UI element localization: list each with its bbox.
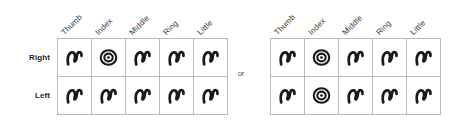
or-separator-label: or: [233, 69, 249, 78]
fingerprint-loop-icon: [166, 85, 187, 106]
column-header-little: Little: [406, 0, 440, 37]
row-label-column: Right Left: [8, 38, 56, 114]
pattern-cell: [92, 39, 126, 77]
fingerprint-loop-icon: [345, 47, 366, 68]
column-header-ring: Ring: [372, 0, 406, 37]
fingerprint-loop-icon: [200, 85, 221, 106]
fingerprint-loop-icon: [132, 47, 153, 68]
pattern-cell: [194, 39, 228, 77]
table-row: [271, 77, 441, 115]
table-row: [58, 39, 228, 77]
pattern-cell: [305, 77, 339, 115]
column-header-row: Thumb Index Middle Ring Little: [270, 0, 442, 38]
pattern-cell: [339, 77, 373, 115]
column-header-thumb: Thumb: [57, 0, 91, 37]
pattern-grid: [270, 38, 441, 115]
pattern-cell: [194, 77, 228, 115]
pattern-cell: [271, 39, 305, 77]
fingerprint-whorl-icon: [311, 47, 332, 68]
pattern-cell: [58, 39, 92, 77]
fingerprint-loop-icon: [64, 85, 85, 106]
fingerprint-loop-icon: [166, 47, 187, 68]
fingerprint-loop-icon: [64, 47, 85, 68]
fingerprint-whorl-icon: [98, 47, 119, 68]
pattern-cell: [271, 77, 305, 115]
fingerprint-loop-icon: [379, 85, 400, 106]
fingerprint-loop-icon: [277, 85, 298, 106]
column-header-little: Little: [193, 0, 227, 37]
fingerprint-loop-icon: [200, 47, 221, 68]
fingerprint-loop-icon: [345, 85, 366, 106]
column-header-ring: Ring: [159, 0, 193, 37]
pattern-cell: [92, 77, 126, 115]
pattern-cell: [126, 39, 160, 77]
pattern-cell: [373, 77, 407, 115]
pattern-cell: [407, 39, 441, 77]
fingerprint-whorl-icon: [311, 85, 332, 106]
pattern-cell: [339, 39, 373, 77]
fingerprint-loop-icon: [413, 85, 434, 106]
table-row: [271, 39, 441, 77]
row-label-right: Right: [8, 38, 56, 76]
fingerprint-loop-icon: [132, 85, 153, 106]
pattern-cell: [126, 77, 160, 115]
column-header-middle: Middle: [338, 0, 372, 37]
column-header-index: Index: [91, 0, 125, 37]
column-header-middle: Middle: [125, 0, 159, 37]
fingerprint-loop-icon: [98, 85, 119, 106]
fingerprint-loop-icon: [413, 47, 434, 68]
pattern-grid: [57, 38, 228, 115]
pattern-cell: [373, 39, 407, 77]
pattern-cell: [407, 77, 441, 115]
column-header-row: Thumb Index Middle Ring Little: [57, 0, 227, 38]
row-label-left: Left: [8, 76, 56, 114]
table-row: [58, 77, 228, 115]
pattern-cell: [160, 77, 194, 115]
column-header-index: Index: [304, 0, 338, 37]
column-header-thumb: Thumb: [270, 0, 304, 37]
pattern-cell: [58, 77, 92, 115]
pattern-cell: [160, 39, 194, 77]
fingerprint-loop-icon: [379, 47, 400, 68]
fingerprint-loop-icon: [277, 47, 298, 68]
pattern-cell: [305, 39, 339, 77]
fingerprint-pattern-figure: Right Left Thumb Index Middle Ring Littl…: [0, 0, 472, 134]
